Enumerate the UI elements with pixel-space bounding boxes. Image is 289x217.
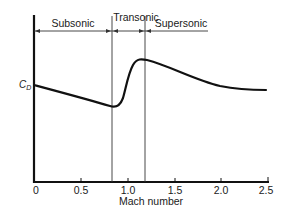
transonic-label: Transonic: [113, 11, 159, 23]
subsonic-label: Subsonic: [51, 17, 94, 29]
drag-coefficient-curve: [34, 59, 266, 106]
mach-drag-chart: 0 0.5 1.0 1.5 2.0 2.5 Mach number CD Sub…: [0, 0, 289, 217]
y-axis-label: CD: [19, 79, 31, 91]
tick-label: 2.5: [259, 184, 274, 196]
tick-label: 0.5: [74, 184, 89, 196]
x-axis-label: Mach number: [119, 195, 184, 207]
tick-label: 2.0: [214, 184, 229, 196]
tick-label: 0: [33, 184, 39, 196]
supersonic-label: Supersonic: [155, 17, 208, 29]
